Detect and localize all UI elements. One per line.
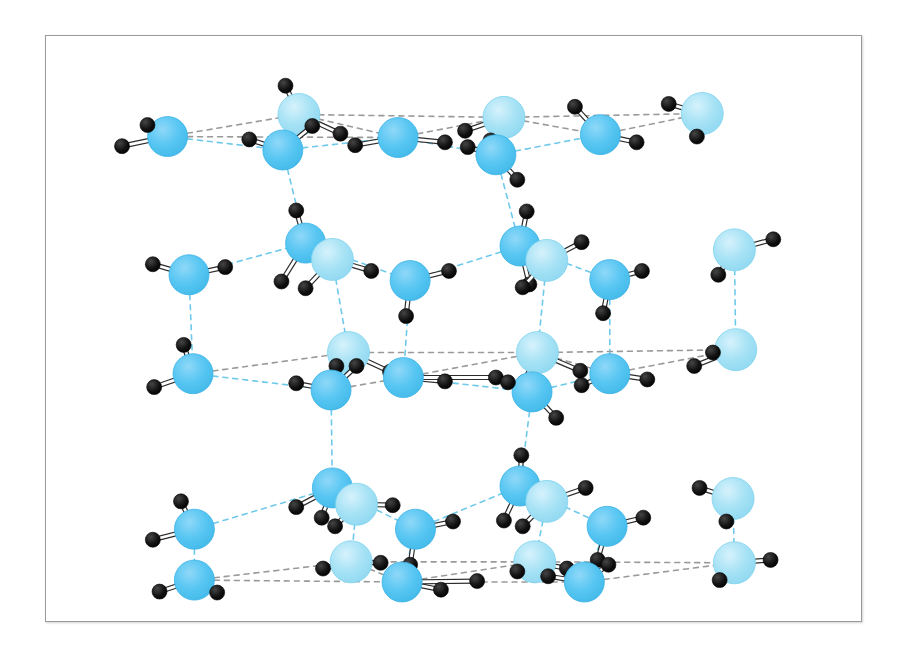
hydrogen-atom: [305, 119, 320, 134]
oxygen-atom: [169, 255, 209, 295]
water-molecule: [460, 135, 525, 187]
hydrogen-atom: [692, 480, 707, 495]
hydrogen-atom: [289, 376, 304, 391]
hydrogen-atom: [328, 519, 343, 534]
water-molecule: [567, 99, 644, 154]
water-molecule: [687, 329, 757, 374]
hydrogen-atom: [145, 257, 160, 272]
hydrogen-atom: [140, 118, 155, 133]
hydrogen-atom: [298, 281, 313, 296]
hydrogen-atom: [629, 135, 644, 150]
hydrogen-atom: [385, 498, 400, 513]
hydrogen-atom: [574, 235, 589, 250]
oxygen-atom: [512, 372, 552, 412]
hydrogen-atom: [640, 372, 655, 387]
oxygen-atom: [713, 229, 755, 271]
hydrogen-atom: [364, 263, 379, 278]
hydrogen-atom: [634, 263, 649, 278]
oxygen-atom: [174, 509, 214, 549]
water-molecule: [289, 359, 364, 411]
hydrogen-atom: [460, 140, 475, 155]
oxygen-atom: [580, 115, 620, 155]
oxygen-atom: [476, 135, 516, 175]
oxygen-atom: [330, 541, 372, 583]
water-molecule: [390, 261, 456, 324]
hydrogen-atom: [712, 573, 727, 588]
hydrogen-atom: [437, 374, 452, 389]
hydrogen-atom: [766, 232, 781, 247]
hydrogen-atom: [719, 514, 734, 529]
hydrogen-atom: [147, 380, 162, 395]
oxygen-atom: [590, 260, 630, 300]
hydrogen-atom: [567, 99, 582, 114]
hydrogen-atom: [687, 359, 702, 374]
oxygen-atom: [526, 239, 568, 281]
water-molecule: [152, 560, 225, 600]
figure-frame: [45, 35, 862, 622]
oxygen-atom: [590, 354, 630, 394]
hydrogen-bond: [299, 114, 504, 117]
hydrogen-atom: [515, 280, 530, 295]
hydrogen-atom: [289, 500, 304, 515]
hydrogen-atom: [549, 410, 564, 425]
hydrogen-bond-layer: [168, 114, 736, 582]
hydrogen-atom: [510, 172, 525, 187]
oxygen-atom: [516, 332, 558, 374]
oxygen-atom: [383, 358, 423, 398]
hydrogen-atom: [349, 359, 364, 374]
hydrogen-atom: [661, 96, 676, 111]
hydrogen-atom: [173, 494, 188, 509]
hydrogen-atom: [433, 582, 448, 597]
hydrogen-atom: [274, 274, 289, 289]
water-molecule: [145, 255, 232, 295]
water-molecule: [712, 542, 778, 588]
oxygen-atom: [311, 238, 353, 280]
hydrogen-atom: [705, 345, 720, 360]
water-molecule: [145, 494, 214, 549]
oxygen-atom: [311, 370, 351, 410]
water-molecule: [115, 117, 188, 157]
hydrogen-atom: [689, 129, 704, 144]
hydrogen-atom: [316, 561, 331, 576]
hydrogen-atom: [596, 306, 611, 321]
hydrogen-bond: [194, 580, 402, 582]
oxygen-atom: [390, 261, 430, 301]
hydrogen-atom: [574, 378, 589, 393]
hydrogen-atom: [515, 519, 530, 534]
hydrogen-atom: [470, 574, 485, 589]
hydrogen-atom: [242, 132, 257, 147]
hydrogen-atom: [210, 585, 225, 600]
oxygen-atom: [587, 506, 627, 546]
oxygen-atom: [483, 96, 525, 138]
hydrogen-atom: [510, 564, 525, 579]
hydrogen-atom: [458, 123, 473, 138]
hydrogen-atom: [333, 126, 348, 141]
water-molecule: [711, 229, 781, 282]
water-molecule: [692, 477, 754, 529]
oxygen-atom: [712, 477, 754, 519]
oxygen-atom: [378, 118, 418, 158]
hydrogen-atom: [541, 569, 556, 584]
water-molecule: [147, 337, 213, 394]
hydrogen-atom: [601, 557, 616, 572]
hydrogen-atom: [446, 514, 461, 529]
oxygen-atom: [526, 480, 568, 522]
water-molecule: [242, 119, 320, 171]
oxygen-atom: [174, 560, 214, 600]
hydrogen-atom: [278, 78, 293, 93]
oxygen-atom: [382, 562, 422, 602]
oxygen-atom: [263, 130, 303, 170]
water-molecule: [661, 93, 723, 145]
ice-lattice-diagram: [46, 36, 863, 623]
hydrogen-atom: [437, 135, 452, 150]
hydrogen-atom: [115, 139, 130, 154]
hydrogen-atom: [152, 584, 167, 599]
hydrogen-atom: [519, 204, 534, 219]
hydrogen-atom: [441, 263, 456, 278]
hydrogen-atom: [289, 203, 304, 218]
hydrogen-bond: [194, 488, 332, 529]
water-molecule: [383, 358, 503, 398]
hydrogen-atom: [514, 448, 529, 463]
water-molecule: [348, 118, 453, 158]
hydrogen-atom: [573, 363, 588, 378]
